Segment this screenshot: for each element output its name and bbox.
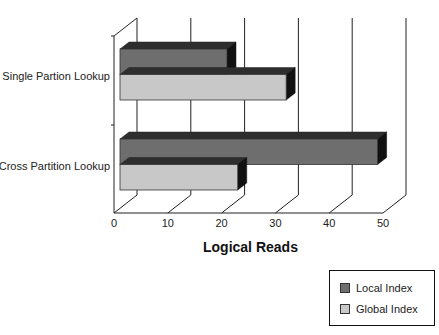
- bar-top-face: [120, 42, 236, 49]
- gridline-floor: [114, 195, 137, 213]
- bar-top-face: [120, 132, 387, 139]
- x-tick-label: 0: [111, 217, 117, 229]
- bar-global-1: [120, 165, 238, 191]
- category-label-single: Single Partion Lookup: [2, 70, 110, 82]
- legend: Local Index Global Index: [329, 270, 435, 326]
- legend-item-global: Global Index: [340, 303, 418, 315]
- left-wall-top-edge: [114, 18, 137, 36]
- gridline-floor: [222, 195, 245, 213]
- legend-swatch-local-icon: [340, 283, 350, 293]
- gridline-floor: [275, 195, 298, 213]
- x-tick-label: 30: [269, 217, 281, 229]
- legend-label-local: Local Index: [356, 282, 412, 294]
- legend-label-global: Global Index: [356, 303, 418, 315]
- category-label-cross: Cross Partition Lookup: [0, 160, 110, 172]
- legend-item-local: Local Index: [340, 282, 412, 294]
- x-axis-title: Logical Reads: [203, 239, 298, 255]
- gridline-floor: [329, 195, 352, 213]
- bar-global-0: [120, 75, 286, 101]
- bar-top-face: [120, 158, 247, 165]
- legend-swatch-global-icon: [340, 304, 350, 314]
- x-tick-label: 20: [215, 217, 227, 229]
- gridline-floor: [168, 195, 191, 213]
- x-tick-label: 10: [162, 217, 174, 229]
- gridline-floor: [383, 195, 406, 213]
- bar-top-face: [120, 68, 295, 75]
- x-tick-label: 50: [377, 217, 389, 229]
- x-tick-label: 40: [323, 217, 335, 229]
